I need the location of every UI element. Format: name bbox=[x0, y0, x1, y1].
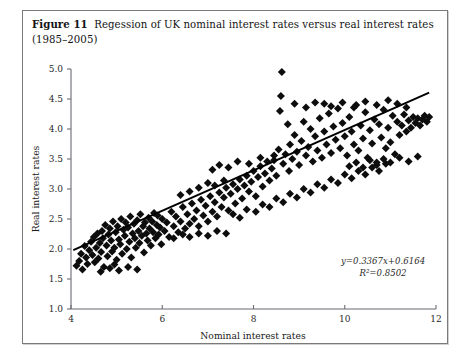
scatter-point bbox=[284, 120, 292, 128]
scatter-point bbox=[318, 154, 326, 162]
y-tick-label: 3.5 bbox=[49, 154, 64, 164]
scatter-point bbox=[276, 107, 284, 115]
scatter-point bbox=[332, 136, 340, 144]
scatter-point bbox=[354, 147, 362, 155]
scatter-point bbox=[170, 222, 178, 230]
scatter-point bbox=[300, 118, 308, 126]
scatter-point bbox=[341, 132, 349, 140]
y-tick-label: 1.5 bbox=[49, 274, 64, 284]
scatter-point bbox=[278, 68, 286, 76]
scatter-point bbox=[309, 157, 317, 165]
scatter-point bbox=[157, 240, 165, 248]
scatter-point bbox=[218, 203, 226, 211]
scatter-point bbox=[211, 198, 219, 206]
x-tick-label: 10 bbox=[339, 314, 351, 324]
x-tick-label: 8 bbox=[251, 314, 257, 324]
scatter-point bbox=[256, 154, 264, 162]
scatter-point bbox=[277, 92, 285, 100]
scatter-point bbox=[243, 205, 251, 213]
scatter-point bbox=[361, 108, 369, 116]
regression-equation-label: y=0.3367x+0.6164 bbox=[340, 256, 425, 266]
scatter-point bbox=[254, 173, 262, 181]
figure-number: Figure 11 bbox=[32, 18, 88, 30]
y-tick-label: 5.0 bbox=[49, 64, 64, 74]
y-tick-label: 4.5 bbox=[49, 94, 64, 104]
scatter-point bbox=[345, 113, 353, 121]
scatter-point bbox=[204, 232, 212, 240]
scatter-point bbox=[133, 265, 141, 273]
scatter-point bbox=[327, 102, 335, 110]
scatter-point bbox=[197, 196, 205, 204]
scatter-point bbox=[231, 199, 239, 207]
scatter-point bbox=[213, 227, 221, 235]
scatter-point bbox=[382, 144, 390, 152]
scatter-point bbox=[279, 198, 287, 206]
scatter-point bbox=[124, 263, 132, 271]
scatter-point bbox=[338, 99, 346, 107]
scatter-point bbox=[311, 99, 319, 107]
scatter-point bbox=[238, 195, 246, 203]
scatter-point bbox=[265, 177, 273, 185]
scatter-point bbox=[286, 190, 294, 198]
scatter-point bbox=[279, 160, 287, 168]
y-tick-label: 1.0 bbox=[49, 304, 64, 314]
scatter-point bbox=[195, 222, 203, 230]
scatter-point bbox=[389, 112, 397, 120]
scatter-point bbox=[186, 233, 194, 241]
scatter-point bbox=[83, 260, 91, 268]
scatter-point bbox=[177, 191, 185, 199]
scatter-point bbox=[311, 132, 319, 140]
r-squared-label: R²=0.8502 bbox=[358, 268, 406, 278]
scatter-point bbox=[384, 124, 392, 132]
scatter-point bbox=[245, 160, 253, 168]
scatter-point bbox=[414, 153, 422, 161]
y-tick-label: 3.0 bbox=[49, 184, 64, 194]
scatter-point bbox=[338, 119, 346, 127]
scatter-chart: 1.01.52.02.53.03.54.04.55.0 4681012 Nomi… bbox=[23, 49, 449, 345]
scatter-point bbox=[350, 141, 358, 149]
scatter-point bbox=[327, 175, 335, 183]
scatter-point bbox=[313, 180, 321, 188]
chart-plot-area: 1.01.52.02.53.03.54.04.55.0 4681012 Nomi… bbox=[23, 49, 449, 345]
scatter-point bbox=[341, 171, 349, 179]
scatter-point bbox=[252, 208, 260, 216]
scatter-point bbox=[245, 187, 253, 195]
scatter-point bbox=[307, 125, 315, 133]
y-tick-label: 2.0 bbox=[49, 244, 64, 254]
scatter-point bbox=[386, 138, 394, 146]
scatter-point bbox=[261, 169, 269, 177]
scatter-point bbox=[302, 103, 310, 111]
scatter-point bbox=[236, 214, 244, 222]
scatter-point bbox=[361, 97, 369, 105]
scatter-point bbox=[252, 192, 260, 200]
scatter-point bbox=[329, 123, 337, 131]
scatter-point bbox=[208, 166, 216, 174]
scatter-point bbox=[400, 111, 408, 119]
scatter-point bbox=[288, 155, 296, 163]
scatter-point bbox=[293, 193, 301, 201]
scatter-point bbox=[215, 161, 223, 169]
scatter-point bbox=[259, 183, 267, 191]
scatter-point bbox=[126, 213, 134, 221]
scatter-point bbox=[373, 101, 381, 109]
scatter-markers bbox=[72, 68, 433, 276]
scatter-point bbox=[348, 174, 356, 182]
scatter-point bbox=[313, 147, 321, 155]
scatter-point bbox=[377, 133, 385, 141]
y-tick-label: 2.5 bbox=[49, 214, 64, 224]
figure-caption: Figure 11 Regession of UK nominal intere… bbox=[32, 17, 437, 47]
scatter-point bbox=[291, 131, 299, 139]
scatter-point bbox=[297, 137, 305, 145]
scatter-point bbox=[188, 199, 196, 207]
scatter-point bbox=[286, 141, 294, 149]
scatter-point bbox=[224, 163, 232, 171]
scatter-point bbox=[291, 100, 299, 108]
scatter-point bbox=[259, 201, 267, 209]
scatter-point bbox=[327, 149, 335, 157]
scatter-point bbox=[352, 159, 360, 167]
y-axis-title: Real interest rates bbox=[30, 145, 41, 232]
scatter-point bbox=[405, 157, 413, 165]
scatter-point bbox=[206, 192, 214, 200]
scatter-point bbox=[316, 114, 324, 122]
scatter-point bbox=[247, 178, 255, 186]
